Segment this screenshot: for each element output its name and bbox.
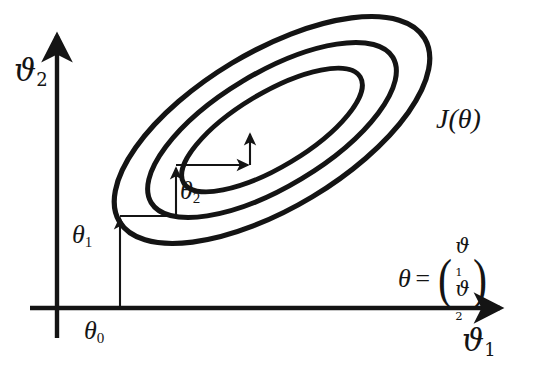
vector-component-2: ϑ2 bbox=[455, 279, 469, 322]
cost-function-label: J(θ) bbox=[436, 105, 481, 133]
y-axis-label: ϑ2 bbox=[14, 55, 48, 89]
vector-equation: θ = ( ϑ1 ϑ2 ) bbox=[398, 236, 489, 323]
theta-one-label: θ1 bbox=[72, 222, 92, 250]
vector-component-1: ϑ1 bbox=[455, 236, 469, 279]
open-paren: ( bbox=[438, 257, 452, 301]
vector-equation-lhs: θ bbox=[398, 266, 411, 292]
equals-sign: = bbox=[414, 266, 432, 292]
vector-components: ϑ1 ϑ2 bbox=[454, 236, 470, 323]
theta-two-label: θ2 bbox=[180, 178, 200, 206]
x-axis-label: ϑ1 bbox=[462, 325, 496, 359]
theta-zero-label: θ0 bbox=[84, 318, 104, 346]
close-paren: ) bbox=[473, 257, 487, 301]
